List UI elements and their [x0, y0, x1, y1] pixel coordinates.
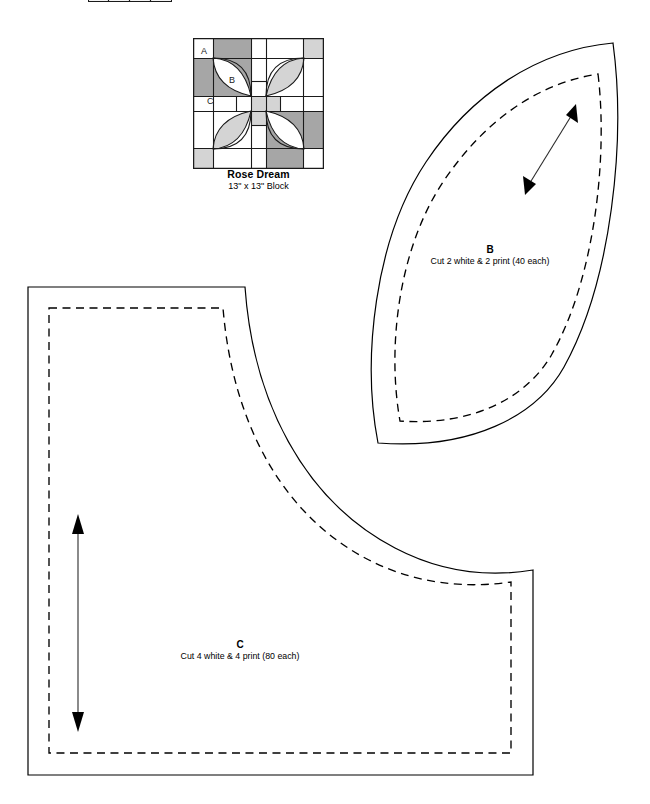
template-c-cut-line [28, 287, 533, 775]
patch-label-b: B [229, 75, 235, 85]
cropped-block-diagram-top [88, 0, 172, 2]
template-c-seam-line [49, 308, 511, 753]
template-c-grainline-arrow [72, 514, 84, 732]
template-c-letter: C [125, 639, 355, 651]
template-c-figure [22, 280, 542, 785]
cropped-block-cells [89, 0, 172, 2]
template-c-cut-instruction: Cut 4 white & 4 print (80 each) [125, 651, 355, 662]
patch-label-c: C [207, 96, 214, 106]
template-b-label: B Cut 2 white & 2 print (40 each) [395, 244, 585, 267]
patch-label-a: A [201, 46, 207, 56]
block-title: Rose Dream [193, 169, 324, 181]
block-patch-group: A B C [193, 38, 324, 169]
template-b-letter: B [395, 244, 585, 256]
block-size-label: 13" x 13" Block [193, 181, 324, 191]
template-b-grainline-arrow [523, 104, 578, 195]
template-b-cut-instruction: Cut 2 white & 2 print (40 each) [395, 256, 585, 267]
template-c-svg [22, 280, 542, 785]
rose-dream-block-figure: A B C Rose Dream 13" x 13" Block [193, 38, 324, 193]
pattern-sheet: A B C Rose Dream 13" x 13" Block B Cut 2… [0, 0, 650, 804]
rose-dream-block-svg: A B C [193, 38, 324, 169]
template-c-label: C Cut 4 white & 4 print (80 each) [125, 639, 355, 662]
